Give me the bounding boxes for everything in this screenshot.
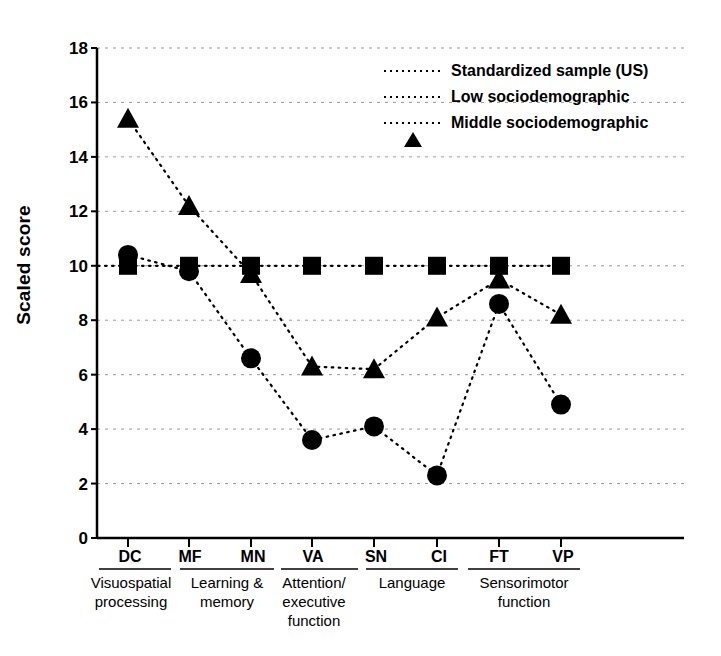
- dotted-line-icon: [382, 70, 444, 72]
- group-label-learning-line2: memory: [180, 592, 274, 611]
- group-label-attention-line1: Attention/: [270, 573, 358, 592]
- chart-figure: Scaled score 18 16 14 12 10 8 6 4 2 0 DC…: [0, 0, 721, 656]
- legend-item-low[interactable]: Low sociodemographic: [382, 84, 648, 110]
- data-point-circle-SN[interactable]: [364, 416, 384, 436]
- x-tick-ft: FT: [479, 548, 519, 566]
- legend-item-middle[interactable]: Middle sociodemographic: [382, 110, 648, 136]
- group-label-visuospatial-line2: processing: [90, 592, 172, 611]
- data-point-circle-VP[interactable]: [551, 395, 571, 415]
- legend-key-standardized: [382, 61, 444, 81]
- data-point-triangle-VP[interactable]: [550, 304, 572, 324]
- x-tick-ci: CI: [419, 548, 459, 566]
- group-label-learning-line1: Learning &: [180, 573, 274, 592]
- data-point-circle-VA[interactable]: [302, 430, 322, 450]
- group-label-sensorimotor-line2: function: [469, 592, 579, 611]
- data-point-circle-MF[interactable]: [179, 261, 199, 281]
- legend-label-low: Low sociodemographic: [451, 88, 630, 106]
- x-tick-dc: DC: [110, 548, 150, 566]
- x-axis-ticks: [128, 538, 561, 547]
- data-point-triangle-MF[interactable]: [178, 195, 200, 215]
- group-label-attention-line3: function: [270, 611, 358, 630]
- legend-key-low: [382, 87, 444, 107]
- legend-label-middle: Middle sociodemographic: [451, 114, 648, 132]
- data-point-circle-MN[interactable]: [241, 348, 261, 368]
- group-label-language: Language: [366, 573, 458, 592]
- data-point-square-CI[interactable]: [428, 257, 446, 275]
- data-point-square-VP[interactable]: [552, 257, 570, 275]
- legend-item-standardized[interactable]: Standardized sample (US): [382, 58, 648, 84]
- triangle-marker-icon: [404, 115, 422, 133]
- dotted-line-icon: [382, 96, 444, 98]
- legend-key-middle: [382, 113, 444, 133]
- x-tick-mn: MN: [233, 548, 273, 566]
- data-point-circle-FT[interactable]: [489, 294, 509, 314]
- data-point-circle-DC[interactable]: [118, 245, 138, 265]
- x-tick-va: VA: [293, 548, 333, 566]
- group-label-sensorimotor: Sensorimotor function: [469, 573, 579, 611]
- data-point-circle-CI[interactable]: [427, 465, 447, 485]
- group-label-learning: Learning & memory: [180, 573, 274, 611]
- x-tick-sn: SN: [356, 548, 396, 566]
- data-point-square-VA[interactable]: [303, 257, 321, 275]
- data-point-triangle-CI[interactable]: [426, 307, 448, 327]
- x-tick-mf: MF: [170, 548, 210, 566]
- legend: Standardized sample (US) Low sociodemogr…: [382, 58, 648, 136]
- group-label-attention: Attention/ executive function: [270, 573, 358, 630]
- legend-label-standardized: Standardized sample (US): [451, 62, 648, 80]
- series-line: [128, 119, 561, 369]
- group-label-attention-line2: executive: [270, 592, 358, 611]
- series-triangle: [117, 108, 572, 378]
- data-point-triangle-VA[interactable]: [301, 356, 323, 376]
- group-label-sensorimotor-line1: Sensorimotor: [469, 573, 579, 592]
- group-label-visuospatial: Visuospatial processing: [90, 573, 172, 611]
- data-point-triangle-DC[interactable]: [117, 108, 139, 128]
- x-tick-vp: VP: [543, 548, 583, 566]
- group-label-visuospatial-line1: Visuospatial: [90, 573, 172, 592]
- data-point-square-SN[interactable]: [365, 257, 383, 275]
- group-label-language-line1: Language: [366, 573, 458, 592]
